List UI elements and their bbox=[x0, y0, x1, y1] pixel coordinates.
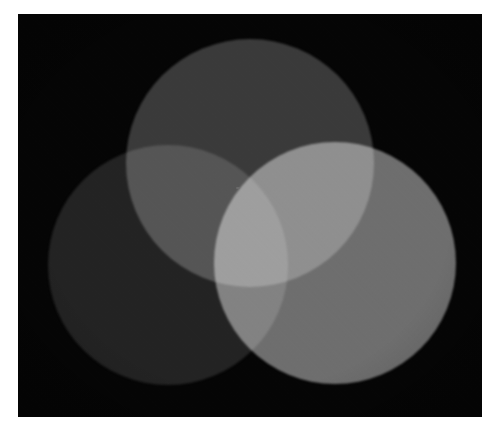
image-panel bbox=[18, 14, 482, 417]
figure-root bbox=[0, 0, 501, 434]
disc-stage bbox=[18, 14, 482, 417]
dust-speck-artifact bbox=[236, 187, 240, 189]
circle-right-source bbox=[214, 142, 456, 384]
